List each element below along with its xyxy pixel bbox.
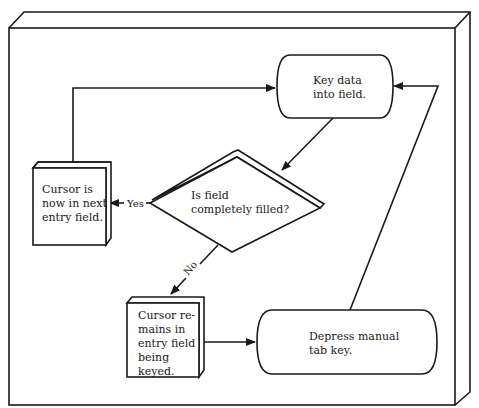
edge-label-yes: Yes bbox=[126, 198, 144, 209]
node-key-data-line-2: into field. bbox=[313, 88, 366, 101]
node-depress-line-1: Depress manual bbox=[309, 330, 400, 343]
node-depress-tab: Depress manual tab key. bbox=[257, 310, 437, 374]
node-depress-line-2: tab key. bbox=[309, 344, 352, 357]
edge-depress-to-key-data bbox=[350, 86, 438, 310]
node-cursor-remains-line-3: entry field bbox=[138, 337, 195, 350]
node-cursor-next: Cursor is now in next entry field. bbox=[33, 162, 111, 245]
edge-no bbox=[200, 245, 218, 264]
node-cursor-next-line-1: Cursor is bbox=[42, 183, 93, 196]
edge-no-arrow bbox=[171, 278, 186, 294]
edge-cursor-next-to-key-data bbox=[73, 88, 275, 163]
edge-label-no: No bbox=[181, 259, 199, 277]
node-decision-line-1: Is field bbox=[191, 189, 229, 202]
edge-key-data-to-decision bbox=[282, 118, 333, 170]
node-cursor-remains-line-2: mains in bbox=[138, 323, 185, 336]
node-cursor-remains: Cursor re- mains in entry field being ke… bbox=[127, 297, 204, 378]
node-cursor-remains-line-4: being bbox=[138, 351, 169, 364]
node-decision: Is field completely filled? bbox=[150, 150, 324, 252]
node-key-data: Key data into field. bbox=[277, 55, 393, 118]
node-cursor-remains-line-1: Cursor re- bbox=[138, 309, 196, 322]
node-key-data-line-1: Key data bbox=[313, 74, 362, 87]
node-cursor-next-line-3: entry field. bbox=[42, 211, 103, 224]
node-cursor-remains-line-5: keyed. bbox=[138, 365, 174, 378]
node-cursor-next-line-2: now in next bbox=[42, 197, 108, 210]
node-decision-line-2: completely filled? bbox=[191, 203, 289, 216]
flowchart-canvas: Yes No Key data into field. Is field com… bbox=[0, 0, 479, 408]
